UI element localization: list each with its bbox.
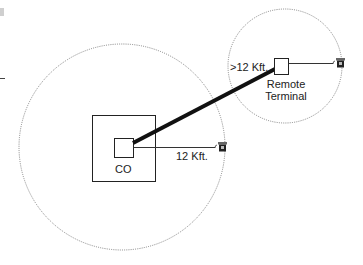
telephone-icon: [215, 142, 227, 152]
remote-terminal-label-line1: Remote: [258, 78, 314, 90]
co-label: CO: [115, 163, 132, 175]
telephone-icon: [333, 58, 345, 68]
remote-terminal-box: [275, 59, 289, 75]
short-loop-length-label: 12 Kft.: [176, 150, 208, 162]
loop-coverage-diagram: CO 12 Kft. >12 Kft. Remote Terminal: [0, 0, 363, 265]
long-loop-length-label: >12 Kft.: [230, 61, 268, 73]
co-switch-box: [115, 139, 134, 158]
remote-terminal-label-line2: Terminal: [258, 90, 314, 102]
diagram-graphics: [0, 0, 363, 265]
edge-artifact: [0, 8, 4, 16]
feeder-line: [133, 69, 275, 143]
